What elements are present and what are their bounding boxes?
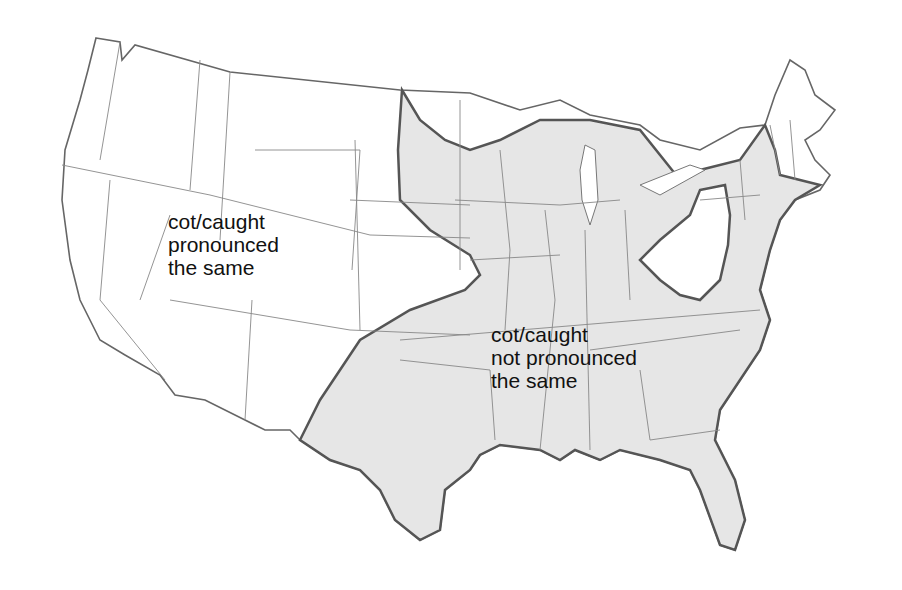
label-merged-region: cot/caught pronounced the same — [168, 210, 279, 279]
label-not-merged-region: cot/caught not pronounced the same — [491, 323, 637, 392]
us-map — [0, 0, 902, 590]
